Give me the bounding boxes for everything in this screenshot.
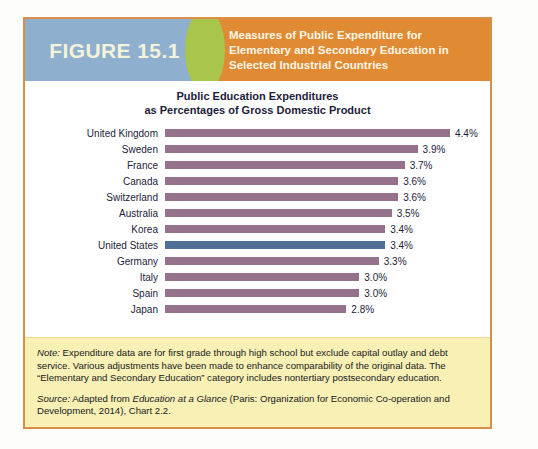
bar-category-label: Korea [25,224,165,235]
bar-track: 3.4% [165,221,490,237]
bar-fill [165,273,359,282]
bar-value-label: 3.3% [384,256,407,267]
bar-track: 3.6% [165,189,490,205]
bar-value-label: 3.4% [390,240,413,251]
bar-value-label: 3.6% [403,192,426,203]
bar-fill [165,209,392,218]
bar-category-label: Japan [25,304,165,315]
bar-row: United Kingdom4.4% [25,125,490,141]
bar-category-label: France [25,160,165,171]
bar-track: 3.7% [165,157,490,173]
bar-value-label: 3.0% [364,272,387,283]
chart-title: Public Education Expenditures as Percent… [25,81,490,117]
chart-title-line-2: as Percentages of Gross Domestic Product [55,103,460,117]
bar-category-label: Switzerland [25,192,165,203]
bar-fill [165,161,405,170]
source-paragraph: Source: Adapted from Education at a Glan… [37,393,478,418]
bar-value-label: 3.4% [390,224,413,235]
bar-value-label: 3.5% [397,208,420,219]
bar-row: United States3.4% [25,237,490,253]
note-label: Note: [37,347,60,358]
bar-fill [165,305,346,314]
bar-fill-highlight [165,241,385,250]
bar-track: 3.3% [165,253,490,269]
bar-value-label: 3.0% [364,288,387,299]
bar-track: 3.4% [165,237,490,253]
bar-row: Italy3.0% [25,269,490,285]
bar-row: Canada3.6% [25,173,490,189]
bar-category-label: Australia [25,208,165,219]
bar-value-label: 4.4% [455,128,478,139]
bar-row: Switzerland3.6% [25,189,490,205]
bar-fill [165,257,379,266]
chart-area: Public Education Expenditures as Percent… [25,81,490,298]
bar-category-label: United Kingdom [25,128,165,139]
bar-row: Australia3.5% [25,205,490,221]
figure-title: Measures of Public Expenditure for Eleme… [229,28,480,73]
bar-track: 4.4% [165,125,490,141]
figure-number-badge: FIGURE 15.1 [25,19,200,81]
bar-fill [165,145,418,154]
bar-row: Sweden3.9% [25,141,490,157]
bar-category-label: Sweden [25,144,165,155]
bar-row: Spain3.0% [25,285,490,301]
bar-chart-plot: United Kingdom4.4%Sweden3.9%France3.7%Ca… [25,125,490,317]
bar-track: 2.8% [165,301,490,317]
bar-fill [165,225,385,234]
bar-value-label: 3.9% [423,144,446,155]
bar-fill [165,193,398,202]
note-body: Expenditure data are for first grade thr… [37,347,448,383]
bar-row: Japan2.8% [25,301,490,317]
note-paragraph: Note: Expenditure data are for first gra… [37,347,478,385]
note-panel: Note: Expenditure data are for first gra… [25,337,490,427]
chart-title-line-1: Public Education Expenditures [177,90,339,102]
bar-fill [165,129,450,138]
bar-track: 3.0% [165,269,490,285]
source-label: Source: [37,393,70,404]
bar-category-label: Italy [25,272,165,283]
bar-row: France3.7% [25,157,490,173]
bar-value-label: 3.7% [410,160,433,171]
bar-track: 3.0% [165,285,490,301]
bar-track: 3.5% [165,205,490,221]
bar-fill [165,177,398,186]
bar-track: 3.6% [165,173,490,189]
bar-category-label: Canada [25,176,165,187]
bar-category-label: Germany [25,256,165,267]
figure-header: FIGURE 15.1 Measures of Public Expenditu… [25,19,490,81]
bar-fill [165,289,359,298]
bar-track: 3.9% [165,141,490,157]
figure-container: FIGURE 15.1 Measures of Public Expenditu… [23,17,492,429]
bar-category-label: United States [25,240,165,251]
header-green-divider-icon [185,19,225,81]
source-publication-title: Education at a Glance [132,393,226,404]
bar-row: Germany3.3% [25,253,490,269]
bar-row: Korea3.4% [25,221,490,237]
bar-value-label: 2.8% [351,304,374,315]
bar-value-label: 3.6% [403,176,426,187]
bar-category-label: Spain [25,288,165,299]
source-text-before: Adapted from [70,393,132,404]
figure-number-label: FIGURE 15.1 [45,40,179,61]
